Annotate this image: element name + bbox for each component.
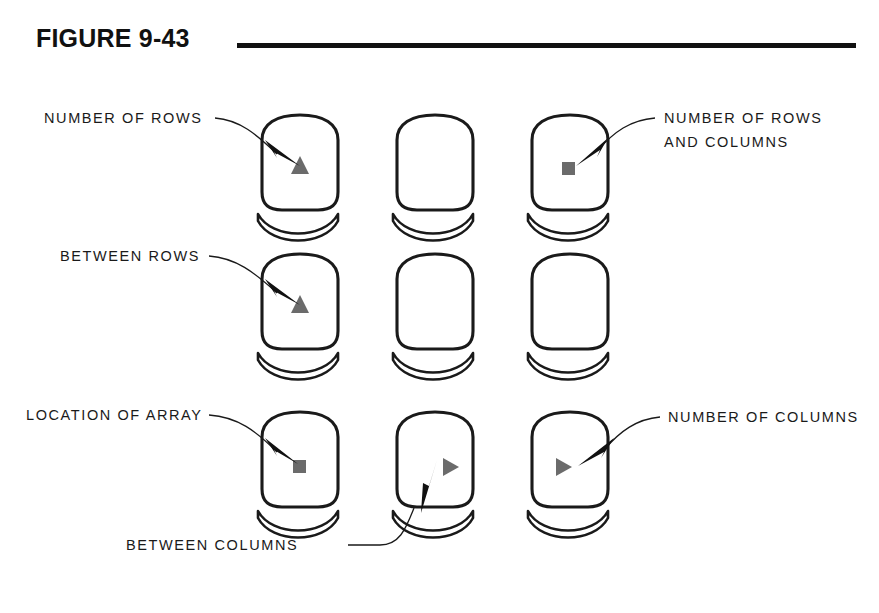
title-rule <box>237 43 856 48</box>
seat-r1c2[interactable] <box>393 115 473 241</box>
callout-label: BETWEEN ROWS <box>60 248 200 264</box>
seat-r3c3[interactable] <box>528 412 608 538</box>
callout-label: NUMBER OF ROWS <box>44 110 203 126</box>
callout-label: LOCATION OF ARRAY <box>26 407 203 423</box>
leader-line <box>604 417 660 450</box>
callout-label-line-2: AND COLUMNS <box>664 134 789 150</box>
page-title: FIGURE 9-43 <box>36 24 190 53</box>
seat-r2c1[interactable] <box>258 254 338 380</box>
callout-label: NUMBER OF COLUMNS <box>668 409 859 425</box>
callout-label: BETWEEN COLUMNS <box>126 537 298 553</box>
figure-header: FIGURE 9-43 <box>0 0 879 70</box>
seat-row-3 <box>258 412 608 538</box>
seat-r3c2[interactable] <box>393 412 473 538</box>
callout-number-of-rows-and-columns: NUMBER OF ROWS AND COLUMNS <box>576 110 823 166</box>
callout-number-of-columns: NUMBER OF COLUMNS <box>578 409 859 466</box>
callout-label-line-1: NUMBER OF ROWS <box>664 110 823 126</box>
seat-r1c1[interactable] <box>258 115 338 241</box>
seat-r3c1[interactable] <box>258 412 338 538</box>
marker-square <box>562 162 575 175</box>
seat-row-1 <box>258 115 608 241</box>
figure-page: FIGURE 9-43 <box>0 0 879 613</box>
seat-r2c3[interactable] <box>528 254 608 380</box>
seat-r1c3[interactable] <box>528 115 608 241</box>
callout-location-of-array: LOCATION OF ARRAY <box>26 407 298 464</box>
seat-array-diagram: NUMBER OF ROWS NUMBER OF ROWS AND COLUMN… <box>0 62 879 613</box>
seat-r2c2[interactable] <box>393 254 473 380</box>
figure-canvas: NUMBER OF ROWS NUMBER OF ROWS AND COLUMN… <box>0 62 879 613</box>
seat-row-2 <box>258 254 608 380</box>
